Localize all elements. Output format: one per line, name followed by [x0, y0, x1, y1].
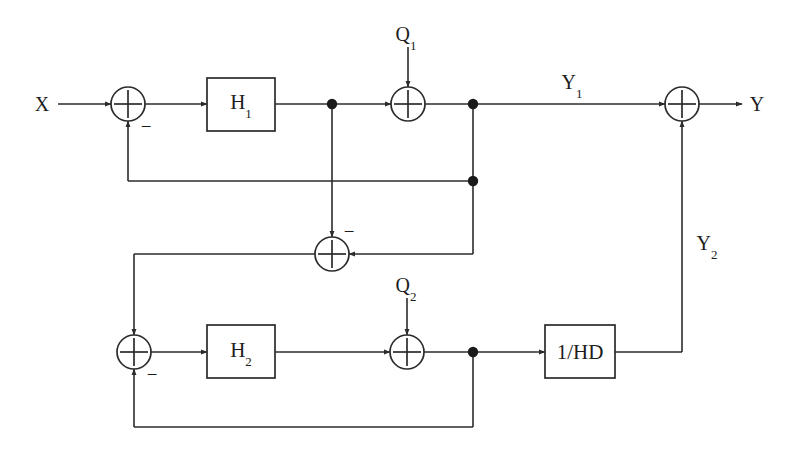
wire-feedback-loop-2	[134, 352, 473, 427]
wire-y1-node-to-mid-summer	[349, 181, 473, 254]
label-output-y: Y	[750, 94, 764, 114]
label-y2-base: Y	[697, 232, 711, 254]
label-q1-base: Q	[396, 23, 410, 45]
label-stage2-output-y2: Y2	[697, 233, 718, 257]
label-q2-base: Q	[396, 274, 410, 296]
sign-minus-stage2-summer: −	[147, 365, 158, 384]
junction-dot-q2-output	[468, 347, 478, 357]
junction-dot-feedback-1	[468, 176, 478, 186]
summer-mid[interactable]	[315, 237, 349, 271]
block-diagram-canvas: X Y Y1 Y2 Q1 Q2 H1 H2 1/HD − − −	[0, 0, 794, 451]
junction-dot-y1	[468, 99, 478, 109]
label-h1-subscript: 1	[245, 106, 252, 121]
diagram-vector-layer	[0, 0, 794, 451]
label-y1-base: Y	[562, 71, 576, 93]
wire-mid-summer-to-stage2-summer	[134, 254, 315, 335]
summer-q1[interactable]	[391, 87, 425, 121]
label-block-inverse-hd: 1/HD	[557, 342, 604, 363]
label-h2-subscript: 2	[245, 354, 252, 369]
label-noise-q2: Q2	[396, 275, 417, 299]
label-q2-subscript: 2	[410, 289, 417, 304]
label-input-x: X	[35, 94, 49, 114]
summer-output[interactable]	[665, 87, 699, 121]
label-noise-q1: Q1	[396, 24, 417, 48]
label-h1-base: H	[230, 90, 245, 114]
label-y2-subscript: 2	[711, 247, 718, 262]
label-block-h1: H1	[230, 92, 252, 116]
label-y1-subscript: 1	[576, 86, 583, 101]
label-h2-base: H	[230, 338, 245, 362]
label-stage1-output-y1: Y1	[562, 72, 583, 96]
junction-dot-h1-output	[327, 99, 337, 109]
summer-q2[interactable]	[390, 335, 424, 369]
label-q1-subscript: 1	[410, 38, 417, 53]
sign-minus-input-summer: −	[141, 117, 152, 136]
label-block-h2: H2	[230, 340, 252, 364]
wire-invhd-to-output-summer	[615, 121, 682, 352]
sign-minus-mid-summer: −	[344, 222, 355, 241]
